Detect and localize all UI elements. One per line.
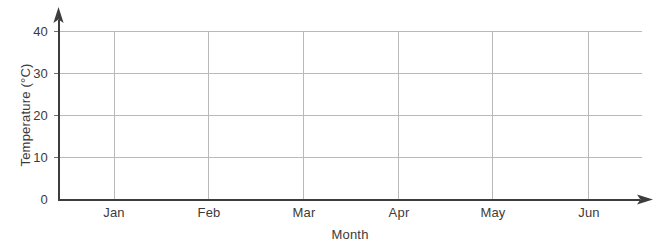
y-tick-label-0: 0: [8, 193, 48, 206]
x-tick-label-may: May: [480, 206, 505, 219]
y-axis-title: Temperature (°C): [19, 63, 33, 166]
x-axis-title: Month: [331, 228, 368, 242]
x-tick-label-jan: Jan: [103, 206, 125, 219]
x-tick-label-mar: Mar: [293, 206, 316, 219]
y-tick-label-40: 40: [8, 25, 48, 38]
x-tick-label-feb: Feb: [197, 206, 220, 219]
x-tick-label-jun: Jun: [578, 206, 600, 219]
chart-container: 40 30 20 10 0 Jan Feb Mar Apr May Jun Mo…: [0, 0, 665, 251]
x-tick-label-apr: Apr: [389, 206, 410, 219]
plot-area: [58, 31, 642, 199]
